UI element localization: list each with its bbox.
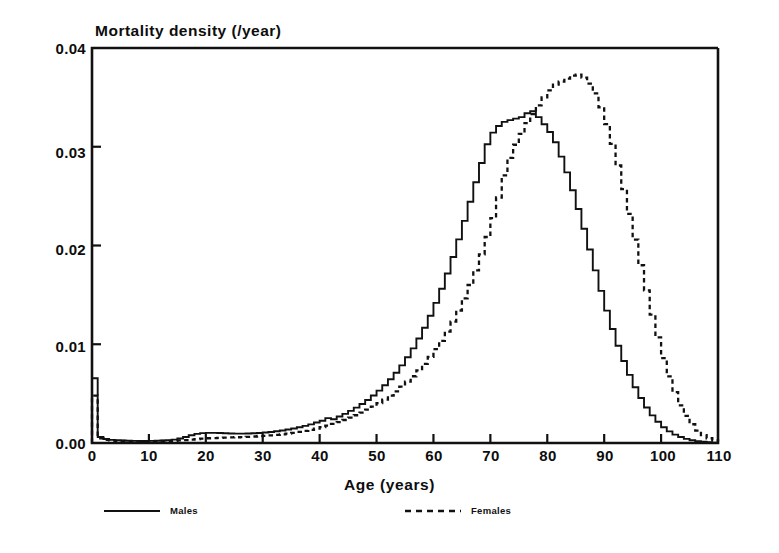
y-axis-ticks <box>92 147 101 345</box>
plot-area <box>0 0 779 553</box>
chart-legend: Males Females <box>0 505 779 535</box>
legend-dashed-line-icon <box>404 506 462 516</box>
legend-entry-females: Females <box>404 505 511 516</box>
legend-label-males: Males <box>170 505 198 516</box>
legend-entry-males: Males <box>103 505 198 516</box>
legend-label-females: Females <box>471 505 511 516</box>
legend-solid-line-icon <box>103 506 161 516</box>
series-line-females <box>92 75 718 443</box>
x-axis-title: Age (years) <box>0 476 779 494</box>
series-line-males <box>92 111 718 443</box>
mortality-density-figure: Mortality density (/year) 0.04 0.03 0.02… <box>0 0 779 553</box>
